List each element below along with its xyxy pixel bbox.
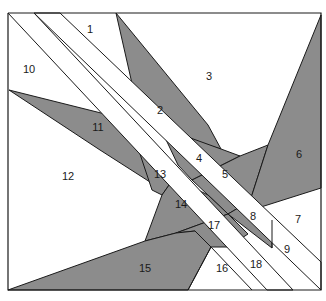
label-13: 13 (154, 168, 166, 180)
label-8: 8 (250, 210, 256, 222)
label-10: 10 (23, 63, 35, 75)
label-12: 12 (62, 170, 74, 182)
label-15: 15 (139, 262, 151, 274)
label-17: 17 (208, 219, 220, 231)
label-6: 6 (296, 148, 302, 160)
label-5: 5 (222, 168, 228, 180)
pattern-diagram: 1 2 3 4 5 6 7 8 9 10 11 12 13 14 15 16 1… (0, 0, 326, 301)
label-16: 16 (216, 262, 228, 274)
label-14: 14 (175, 198, 187, 210)
label-1: 1 (87, 23, 93, 35)
label-4: 4 (196, 152, 202, 164)
label-3: 3 (206, 70, 212, 82)
label-11: 11 (92, 121, 103, 133)
label-18: 18 (250, 258, 262, 270)
pattern-svg: 1 2 3 4 5 6 7 8 9 10 11 12 13 14 15 16 1… (0, 0, 326, 301)
piece-6-shape (250, 15, 321, 207)
label-2: 2 (157, 104, 163, 116)
piece-15-shape (8, 231, 211, 290)
label-9: 9 (284, 243, 290, 255)
label-7: 7 (295, 213, 301, 225)
